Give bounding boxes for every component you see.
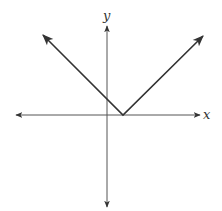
absolute-value-curve xyxy=(43,35,203,115)
x-axis-label: x xyxy=(203,107,211,122)
y-axis-label: y xyxy=(102,8,111,23)
absolute-value-graph: x y xyxy=(0,0,222,211)
